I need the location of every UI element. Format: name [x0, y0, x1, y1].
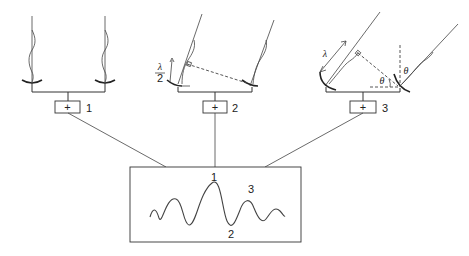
antenna-dish-icon	[167, 80, 182, 86]
theta-symbol: θ	[380, 75, 385, 86]
adder-symbol: +	[64, 101, 70, 113]
configuration-1: + 1	[22, 16, 115, 114]
ray-line	[250, 20, 274, 86]
peak-label-3: 3	[248, 183, 254, 195]
cable	[326, 87, 400, 92]
path-difference-arrow	[170, 60, 172, 82]
cable	[178, 87, 252, 92]
peak-label-1: 1	[211, 171, 217, 183]
theta-symbol: θ	[404, 65, 409, 76]
right-angle-marker	[186, 61, 191, 66]
configuration-3: λ θ θ + 3	[320, 12, 458, 114]
configuration-2: λ 2 + 2	[155, 14, 274, 114]
signal-line-3	[265, 113, 363, 167]
trough-label-2: 2	[228, 228, 234, 240]
signal-line-1	[68, 113, 166, 167]
wavefront-dashed-line	[358, 53, 398, 86]
output-fringe-box: 1 3 2	[130, 167, 301, 242]
ray-line	[178, 14, 202, 84]
lambda-symbol: λ	[157, 61, 163, 72]
antenna-dish-icon	[242, 80, 258, 86]
adder-symbol: +	[212, 101, 218, 113]
wave	[329, 52, 358, 84]
lambda-symbol: λ	[322, 48, 328, 59]
config-label: 1	[86, 102, 92, 114]
config-label: 3	[382, 102, 388, 114]
interferometer-diagram: + 1 λ 2 + 2 λ	[0, 0, 469, 256]
config-label: 2	[232, 102, 238, 114]
angle-arc	[389, 79, 390, 87]
adder-symbol: +	[360, 101, 366, 113]
cable	[32, 83, 105, 92]
fraction-denominator: 2	[157, 72, 163, 84]
antenna-dish-icon	[394, 74, 410, 92]
ray-line	[325, 12, 380, 86]
wavefront-dashed-line	[187, 64, 250, 84]
